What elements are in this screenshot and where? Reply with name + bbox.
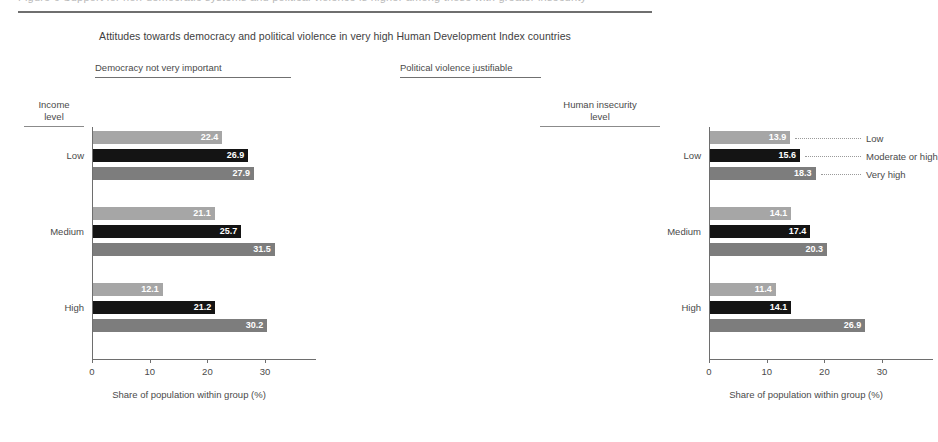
category-label-high: High: [681, 301, 701, 314]
bar-value-label: 12.1: [141, 283, 159, 296]
x-tick: [92, 359, 93, 363]
x-tick-label: 10: [144, 366, 155, 377]
bar-value-label: 31.5: [253, 243, 271, 256]
bar-political-violence-justifiable-high-moderate-or-high[interactable]: 14.1: [710, 301, 791, 314]
legend-item-moderate-or-high[interactable]: Moderate or high: [866, 150, 938, 161]
category-label-medium: Medium: [667, 225, 701, 238]
bar-democracy-not-very-important-high-moderate-or-high[interactable]: 21.2: [93, 301, 215, 314]
x-tick-label: 30: [877, 366, 888, 377]
category-label-low: Low: [67, 149, 84, 162]
x-tick-label: 20: [819, 366, 830, 377]
bar-value-label: 13.9: [769, 131, 787, 144]
bar-political-violence-justifiable-high-very-high[interactable]: 26.9: [710, 319, 865, 332]
x-tick-label: 20: [202, 366, 213, 377]
category-label-low: Low: [684, 149, 701, 162]
bar-political-violence-justifiable-low-very-high[interactable]: 18.3: [710, 167, 816, 180]
bar-value-label: 15.6: [778, 149, 796, 162]
bar-democracy-not-very-important-high-low[interactable]: 12.1: [93, 283, 163, 296]
bar-democracy-not-very-important-high-very-high[interactable]: 30.2: [93, 319, 267, 332]
chart-panel-violence: Share of population within group (%) 010…: [308, 0, 670, 442]
bar-political-violence-justifiable-high-low[interactable]: 11.4: [710, 283, 776, 296]
value-axis: [709, 359, 933, 360]
plot-area-democracy: Share of population within group (%) 010…: [92, 127, 286, 359]
bar-value-label: 14.1: [770, 301, 788, 314]
x-tick: [265, 359, 266, 363]
category-label-medium: Medium: [50, 225, 84, 238]
bar-democracy-not-very-important-low-very-high[interactable]: 27.9: [93, 167, 254, 180]
bar-democracy-not-very-important-medium-very-high[interactable]: 31.5: [93, 243, 275, 256]
bar-value-label: 17.4: [789, 225, 807, 238]
bar-value-label: 27.9: [232, 167, 250, 180]
bar-political-violence-justifiable-medium-very-high[interactable]: 20.3: [710, 243, 827, 256]
bar-value-label: 18.3: [794, 167, 812, 180]
legend-leader-line: [795, 138, 861, 139]
bar-political-violence-justifiable-low-low[interactable]: 13.9: [710, 131, 790, 144]
bar-value-label: 21.2: [194, 301, 212, 314]
x-tick-label: 10: [761, 366, 772, 377]
legend-item-very-high[interactable]: Very high: [866, 168, 906, 179]
bar-political-violence-justifiable-medium-low[interactable]: 14.1: [710, 207, 791, 220]
bar-political-violence-justifiable-medium-moderate-or-high[interactable]: 17.4: [710, 225, 810, 238]
bar-value-label: 30.2: [246, 319, 264, 332]
bar-value-label: 11.4: [755, 283, 772, 296]
x-tick-label: 0: [706, 366, 711, 377]
plot-area-violence: Share of population within group (%) 010…: [709, 127, 903, 359]
x-tick: [207, 359, 208, 363]
bar-value-label: 20.3: [806, 243, 824, 256]
x-tick: [824, 359, 825, 363]
chart-panel-democracy: Share of population within group (%) 010…: [0, 0, 340, 442]
bar-value-label: 21.1: [193, 207, 211, 220]
x-tick: [767, 359, 768, 363]
x-tick-label: 0: [89, 366, 94, 377]
x-tick: [882, 359, 883, 363]
legend-leader-line: [821, 174, 861, 175]
x-tick: [709, 359, 710, 363]
category-label-high: High: [64, 301, 84, 314]
bar-value-label: 25.7: [220, 225, 238, 238]
bar-democracy-not-very-important-medium-low[interactable]: 21.1: [93, 207, 215, 220]
legend-item-low[interactable]: Low: [866, 132, 883, 143]
bar-democracy-not-very-important-low-moderate-or-high[interactable]: 26.9: [93, 149, 248, 162]
x-tick-label: 30: [260, 366, 271, 377]
value-axis: [92, 359, 316, 360]
bar-value-label: 14.1: [770, 207, 788, 220]
x-axis-title: Share of population within group (%): [681, 389, 931, 400]
x-tick: [150, 359, 151, 363]
legend-leader-line: [805, 156, 861, 157]
bar-democracy-not-very-important-low-low[interactable]: 22.4: [93, 131, 222, 144]
bar-democracy-not-very-important-medium-moderate-or-high[interactable]: 25.7: [93, 225, 241, 238]
bar-value-label: 26.9: [227, 149, 245, 162]
bar-value-label: 22.4: [201, 131, 219, 144]
bar-political-violence-justifiable-low-moderate-or-high[interactable]: 15.6: [710, 149, 800, 162]
bar-value-label: 26.9: [844, 319, 862, 332]
x-axis-title: Share of population within group (%): [64, 389, 314, 400]
